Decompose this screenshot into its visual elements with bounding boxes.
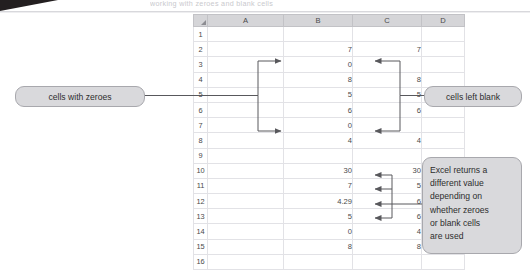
cell-a11-label[interactable]: COUNT [208,178,284,193]
table-row: 8 4 4 [194,133,465,148]
table-row: 1 Zero Values Blank Cells [194,27,465,42]
cell-d3[interactable] [422,57,465,72]
row-header-15[interactable]: 15 [194,239,208,254]
cell-a12-label[interactable]: AVERAGE [208,194,284,209]
cell-a1[interactable] [208,27,284,42]
cell-b15[interactable]: 8 [284,239,353,254]
cell-c15[interactable]: 8 [353,239,422,254]
row-header-9[interactable]: 9 [194,148,208,163]
figure-caption-text: working with zeroes and blank cells [150,0,480,8]
cell-b5[interactable]: 5 [284,87,353,102]
cell-b2[interactable]: 7 [284,42,353,57]
cell-a14-label[interactable]: MINIMUM [208,224,284,239]
cell-c8[interactable]: 4 [353,133,422,148]
select-all-triangle-icon [201,20,206,25]
row-header-1[interactable]: 1 [194,27,208,42]
cell-b11[interactable]: 7 [284,178,353,193]
row-header-2[interactable]: 2 [194,42,208,57]
cell-a9[interactable] [208,148,284,163]
row-header-5[interactable]: 5 [194,87,208,102]
cell-a2[interactable] [208,42,284,57]
column-header-a[interactable]: A [208,15,284,27]
row-header-13[interactable]: 13 [194,209,208,224]
cell-c7[interactable] [353,118,422,133]
callout-line-5: or blank cells [430,217,521,230]
cell-a4[interactable] [208,72,284,87]
cell-a6[interactable] [208,102,284,117]
corner-tab-icon [0,0,58,11]
column-header-row: A B C D [194,15,465,27]
caption-divider-secondary [0,12,530,13]
row-header-12[interactable]: 12 [194,194,208,209]
cell-b13[interactable]: 5 [284,209,353,224]
table-row: 3 0 [194,57,465,72]
cell-d8[interactable] [422,133,465,148]
row-header-6[interactable]: 6 [194,102,208,117]
table-row: 7 0 [194,118,465,133]
callout-line-4: whether zeroes [430,204,521,217]
column-header-c[interactable]: C [353,15,422,27]
cell-d7[interactable] [422,118,465,133]
cell-c1-header-label[interactable]: Blank Cells [353,27,422,42]
row-header-10[interactable]: 10 [194,163,208,178]
cell-b3[interactable]: 0 [284,57,353,72]
cell-b7[interactable]: 0 [284,118,353,133]
row-header-4[interactable]: 4 [194,72,208,87]
callout-explanation: Excel returns a different value dependin… [422,157,522,254]
cell-a5[interactable] [208,87,284,102]
cell-b8[interactable]: 4 [284,133,353,148]
cell-c2[interactable]: 7 [353,42,422,57]
row-header-7[interactable]: 7 [194,118,208,133]
cell-a10-label[interactable]: SUM [208,163,284,178]
cell-a8[interactable] [208,133,284,148]
cell-a15-label[interactable]: MAXIMUM [208,239,284,254]
cell-c4[interactable]: 8 [353,72,422,87]
table-row: 2 7 7 [194,42,465,57]
cell-c10[interactable]: 30 [353,163,422,178]
cell-d16[interactable] [422,254,465,269]
select-all-corner[interactable] [194,15,208,27]
row-header-14[interactable]: 14 [194,224,208,239]
callout-cells-with-zeroes: cells with zeroes [15,86,145,107]
callout-line-1: Excel returns a [430,164,521,177]
column-header-b[interactable]: B [284,15,353,27]
cell-c14[interactable]: 4 [353,224,422,239]
cell-c12[interactable]: 6 [353,194,422,209]
cell-b16[interactable] [284,254,353,269]
callout-cells-left-blank: cells left blank [424,86,522,107]
cell-c11[interactable]: 5 [353,178,422,193]
cell-b4[interactable]: 8 [284,72,353,87]
cell-b12[interactable]: 4.29 [284,194,353,209]
cell-c3[interactable] [353,57,422,72]
cell-a3[interactable] [208,57,284,72]
cell-c5[interactable]: 5 [353,87,422,102]
cell-d4[interactable] [422,72,465,87]
column-header-d[interactable]: D [422,15,465,27]
table-row: 4 8 8 [194,72,465,87]
cell-c13[interactable]: 6 [353,209,422,224]
table-row: 6 6 6 [194,102,465,117]
callout-line-3: depending on [430,190,521,203]
cell-c16[interactable] [353,254,422,269]
cell-d1[interactable] [422,27,465,42]
callout-line-2: different value [430,177,521,190]
cell-b10[interactable]: 30 [284,163,353,178]
row-header-11[interactable]: 11 [194,178,208,193]
callout-line-6: are used [430,230,521,243]
cell-a16[interactable] [208,254,284,269]
cell-d2[interactable] [422,42,465,57]
cell-b1-header-label[interactable]: Zero Values [284,27,353,42]
cell-b14[interactable]: 0 [284,224,353,239]
row-header-8[interactable]: 8 [194,133,208,148]
cell-c9[interactable] [353,148,422,163]
table-row: 16 [194,254,465,269]
cell-a7[interactable] [208,118,284,133]
cell-c6[interactable]: 6 [353,102,422,117]
cell-a13-label[interactable]: MEDIAN [208,209,284,224]
cell-b9[interactable] [284,148,353,163]
cell-b6[interactable]: 6 [284,102,353,117]
row-header-16[interactable]: 16 [194,254,208,269]
row-header-3[interactable]: 3 [194,57,208,72]
